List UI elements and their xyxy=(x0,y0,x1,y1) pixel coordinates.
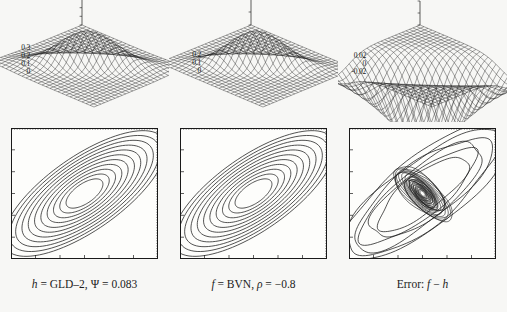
contour-lines-gld2 xyxy=(11,128,158,259)
caption-eq2: = xyxy=(99,278,111,290)
column-gld2-surface: 0.3 0.2 0.1 0 xyxy=(0,0,169,122)
contour-plot-row xyxy=(0,122,507,270)
surface-mesh-error xyxy=(338,0,507,122)
column-bvn-caption: f = BVN, ρ = −0.8 xyxy=(169,270,338,312)
surface-plot-error: 0.02 0 -0.02 xyxy=(338,0,507,122)
caption-eq1: = BVN, xyxy=(215,278,257,290)
surface-mesh-bvn xyxy=(169,0,338,122)
contour-lines-bvn xyxy=(180,128,327,259)
caption-lhs: Error: xyxy=(397,278,424,290)
caption-row: h = GLD–2, Ψ = 0.083 f = BVN, ρ = −0.8 E… xyxy=(0,270,507,312)
contour-lines-error xyxy=(349,128,496,259)
surface-mesh-gld2 xyxy=(0,0,169,122)
caption-param-value: −0.8 xyxy=(275,278,296,290)
column-error-contour xyxy=(338,122,507,270)
figure-container: 0.3 0.2 0.1 0 0.2 0.1 0 0. xyxy=(0,0,507,312)
caption-param-symbol: Ψ xyxy=(91,278,100,290)
caption-error: Error: f − h xyxy=(338,270,507,290)
surface-plot-gld2: 0.3 0.2 0.1 0 xyxy=(0,0,169,122)
caption-param-value: h xyxy=(443,278,449,290)
caption-eq2: − xyxy=(430,278,442,290)
column-error-surface: 0.02 0 -0.02 xyxy=(338,0,507,122)
contour-plot-gld2 xyxy=(11,128,158,259)
caption-param-value: 0.083 xyxy=(111,278,137,290)
column-bvn-contour xyxy=(169,122,338,270)
column-error-caption: Error: f − h xyxy=(338,270,507,312)
surface-plot-row: 0.3 0.2 0.1 0 0.2 0.1 0 0. xyxy=(0,0,507,122)
contour-plot-bvn xyxy=(180,128,327,259)
caption-bvn: f = BVN, ρ = −0.8 xyxy=(169,270,338,290)
contour-plot-error xyxy=(349,128,496,259)
caption-gld2: h = GLD–2, Ψ = 0.083 xyxy=(0,270,169,290)
surface-plot-bvn: 0.2 0.1 0 xyxy=(169,0,338,122)
column-gld2-contour xyxy=(0,122,169,270)
column-gld2-caption: h = GLD–2, Ψ = 0.083 xyxy=(0,270,169,312)
caption-eq1: = GLD–2, xyxy=(38,278,91,290)
column-bvn-surface: 0.2 0.1 0 xyxy=(169,0,338,122)
caption-eq2: = xyxy=(262,278,274,290)
